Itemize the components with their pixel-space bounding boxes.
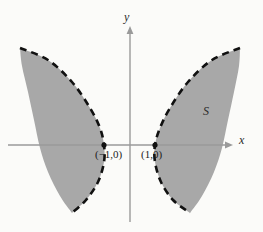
y-axis-arrowhead	[127, 26, 134, 34]
x-axis-arrowhead	[225, 142, 233, 149]
figure-canvas: y x (−1,0) (1,0) S	[0, 0, 263, 232]
point-label-one-zero: (1,0)	[141, 148, 162, 160]
point-minus-one-zero	[101, 142, 106, 147]
region-label-S: S	[203, 104, 209, 119]
point-label-minus-one-zero: (−1,0)	[95, 148, 122, 160]
point-one-zero	[152, 142, 157, 147]
coordinate-plane-svg	[0, 0, 263, 232]
y-axis-label: y	[124, 10, 129, 25]
x-axis-label: x	[239, 133, 244, 148]
